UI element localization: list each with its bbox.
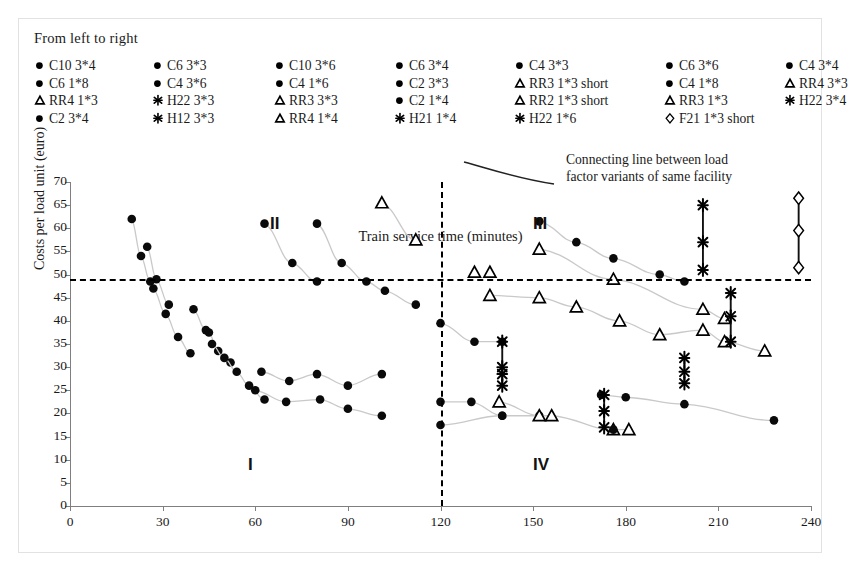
legend-item[interactable]: C6 3*4 — [394, 57, 456, 75]
triangle-marker-icon — [784, 75, 799, 93]
legend-item[interactable]: C4 3*6 — [152, 75, 214, 93]
legend-item[interactable]: RR4 1*4 — [274, 110, 338, 128]
legend-item[interactable]: H22 1*6 — [514, 110, 608, 128]
star-marker-icon — [514, 110, 529, 128]
x-tick — [441, 506, 442, 511]
legend-title: From left to right — [34, 30, 138, 47]
legend-item-label: C6 1*8 — [49, 75, 89, 93]
legend-item[interactable]: H22 3*3 — [152, 92, 214, 110]
legend-item[interactable]: C6 3*3 — [152, 57, 214, 75]
legend-column: C10 3*6C4 1*6RR3 3*3RR4 1*4 — [274, 57, 338, 127]
y-tick-label: 5 — [27, 474, 67, 490]
series-h22-1-6 — [698, 199, 708, 276]
star-marker-icon — [394, 110, 409, 128]
extra-data-point — [609, 425, 618, 434]
legend-item[interactable]: RR4 3*3 — [784, 75, 848, 93]
x-tick-label: 120 — [416, 514, 466, 530]
y-tick-label: 0 — [27, 497, 67, 513]
legend-item[interactable]: RR4 1*3 — [34, 92, 98, 110]
y-tick-label: 30 — [27, 358, 67, 374]
y-tick-label: 40 — [27, 312, 67, 328]
circle-marker-icon — [34, 75, 49, 93]
legend-item-label: H22 3*4 — [799, 92, 846, 110]
legend-column: C4 3*4RR4 3*3H22 3*4 — [784, 57, 848, 110]
triangle-marker-icon — [34, 92, 49, 110]
legend-item[interactable]: RR3 3*3 — [274, 92, 338, 110]
legend-item[interactable]: C10 3*4 — [34, 57, 98, 75]
series-h22-3-3 — [497, 336, 507, 392]
x-tick — [163, 506, 164, 511]
legend-item[interactable]: C6 1*8 — [34, 75, 98, 93]
series-c4-3-6 — [251, 386, 386, 420]
plot-area: Costs per load unit (euro) Train service… — [70, 182, 811, 506]
circle-marker-icon — [274, 57, 289, 75]
legend-item-label: RR4 1*4 — [289, 110, 338, 128]
star-marker-icon — [784, 92, 799, 110]
legend-item[interactable]: C4 3*3 — [514, 57, 608, 75]
legend-item[interactable]: C4 1*6 — [274, 75, 338, 93]
legend-column: C4 3*3RR3 1*3 shortRR2 1*3 shortH22 1*6 — [514, 57, 608, 127]
triangle-marker-icon — [274, 110, 289, 128]
x-tick-label: 30 — [138, 514, 188, 530]
x-tick — [533, 506, 534, 511]
legend-item[interactable]: C6 3*6 — [664, 57, 755, 75]
legend-item[interactable]: C4 3*4 — [784, 57, 848, 75]
series-h21-1-4 — [599, 389, 609, 434]
legend-item[interactable]: H22 3*4 — [784, 92, 848, 110]
circle-marker-icon — [394, 75, 409, 93]
triangle-marker-icon — [274, 92, 289, 110]
y-tick-label: 35 — [27, 335, 67, 351]
x-tick — [626, 506, 627, 511]
legend-item-label: C4 1*8 — [679, 75, 719, 93]
legend-item[interactable]: RR3 1*3 short — [514, 75, 608, 93]
legend-column: C10 3*4C6 1*8RR4 1*3C2 3*4 — [34, 57, 98, 127]
series-rr4-3-3 — [533, 243, 730, 323]
legend-item-label: C6 3*3 — [167, 57, 207, 75]
series-c10-3-4 — [127, 215, 154, 286]
legend-item-label: C2 1*4 — [409, 92, 449, 110]
series-c4-3-4 — [313, 219, 420, 309]
y-tick-label: 50 — [27, 266, 67, 282]
legend-item[interactable]: C4 1*8 — [664, 75, 755, 93]
legend-item-label: RR3 3*3 — [289, 92, 338, 110]
quadrant-label-iii: III — [533, 214, 547, 234]
circle-marker-icon — [152, 75, 167, 93]
x-tick-label: 0 — [45, 514, 95, 530]
x-tick — [70, 506, 71, 511]
legend-item[interactable]: F21 1*3 short — [664, 110, 755, 128]
triangle-marker-icon — [664, 92, 679, 110]
quadrant-label-i: I — [248, 455, 253, 475]
x-tick-label: 90 — [323, 514, 373, 530]
circle-marker-icon — [34, 57, 49, 75]
legend-item-label: C4 3*4 — [799, 57, 839, 75]
legend-item[interactable]: RR3 1*3 — [664, 92, 755, 110]
series-c2-3-3 — [436, 319, 506, 346]
legend-item-label: F21 1*3 short — [679, 110, 755, 128]
legend-item[interactable]: RR2 1*3 short — [514, 92, 608, 110]
legend-item-label: C6 3*6 — [679, 57, 719, 75]
series-c10-3-6 — [149, 284, 195, 357]
legend-item[interactable]: H21 1*4 — [394, 110, 456, 128]
legend-item[interactable]: C2 3*3 — [394, 75, 456, 93]
x-tick — [811, 506, 812, 511]
legend-item-label: RR2 1*3 short — [529, 92, 608, 110]
triangle-marker-icon — [514, 92, 529, 110]
series-rr4-1-3 — [376, 197, 422, 245]
legend-item-label: RR3 1*3 — [679, 92, 728, 110]
legend-item-label: H22 3*3 — [167, 92, 214, 110]
quadrant-label-ii: II — [270, 214, 279, 234]
y-tick-label: 55 — [27, 242, 67, 258]
y-tick-label: 70 — [27, 173, 67, 189]
legend-item[interactable]: C10 3*6 — [274, 57, 338, 75]
series-c4-1-6 — [436, 411, 543, 429]
legend-item[interactable]: C2 1*4 — [394, 92, 456, 110]
series-h12-3-3 — [680, 352, 690, 390]
x-tick-label: 240 — [786, 514, 836, 530]
legend-item[interactable]: H12 3*3 — [152, 110, 214, 128]
legend-item[interactable]: C2 3*4 — [34, 110, 98, 128]
series-f21-1-3-short — [794, 192, 804, 274]
circle-marker-icon — [664, 75, 679, 93]
x-tick — [718, 506, 719, 511]
legend-item-label: C4 3*3 — [529, 57, 569, 75]
legend-item-label: RR4 3*3 — [799, 75, 848, 93]
